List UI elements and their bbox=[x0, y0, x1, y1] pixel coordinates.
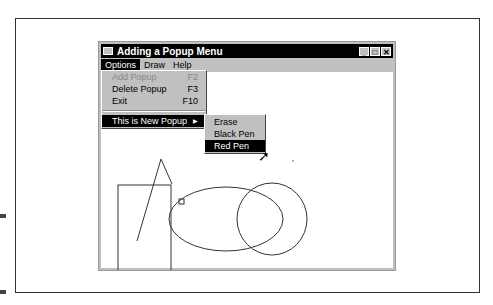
submenu-item-erase[interactable]: Erase bbox=[205, 116, 265, 128]
maximize-button[interactable]: □ bbox=[370, 47, 380, 56]
title-bar[interactable]: Adding a Popup Menu _ □ ✕ bbox=[101, 44, 393, 58]
menu-item-delete-popup[interactable]: Delete PopupF3 bbox=[102, 83, 206, 95]
minimize-button[interactable]: _ bbox=[359, 47, 369, 56]
mouse-cursor-icon: ➚ bbox=[258, 148, 270, 164]
popup-submenu: Erase Black Pen Red Pen bbox=[204, 114, 266, 154]
submenu-item-red-pen[interactable]: Red Pen bbox=[205, 140, 265, 152]
window-icon[interactable] bbox=[103, 47, 113, 55]
window-title: Adding a Popup Menu bbox=[117, 46, 223, 57]
margin-mark bbox=[0, 214, 6, 218]
submenu-item-black-pen[interactable]: Black Pen bbox=[205, 128, 265, 140]
options-dropdown: Add PopupF2 Delete PopupF3 ExitF10 This … bbox=[101, 70, 207, 129]
menu-item-add-popup[interactable]: Add PopupF2 bbox=[102, 71, 206, 83]
menu-item-exit[interactable]: ExitF10 bbox=[102, 95, 206, 107]
menu-item-new-popup[interactable]: This is New Popup▶ bbox=[102, 115, 206, 127]
close-button[interactable]: ✕ bbox=[381, 47, 391, 56]
menu-separator bbox=[103, 110, 205, 112]
margin-mark bbox=[0, 290, 6, 294]
submenu-arrow-icon: ▶ bbox=[193, 115, 198, 127]
